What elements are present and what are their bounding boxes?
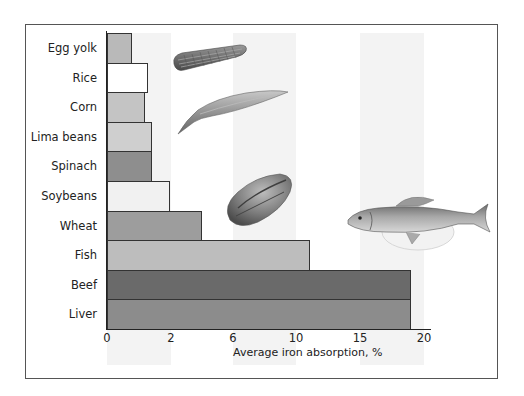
x-tick-label: 0 bbox=[103, 331, 110, 345]
bar-corn bbox=[107, 92, 145, 123]
category-label: Spinach bbox=[51, 151, 97, 181]
bar-egg-yolk bbox=[107, 33, 132, 64]
x-tick-label: 10 bbox=[289, 331, 304, 345]
x-tick-label: 2 bbox=[167, 331, 174, 345]
x-tick-label: 15 bbox=[353, 331, 368, 345]
y-axis-line bbox=[106, 31, 107, 330]
soybean-illustration bbox=[224, 170, 296, 230]
category-label: Beef bbox=[71, 270, 97, 300]
category-label: Soybeans bbox=[41, 181, 97, 211]
bar-spinach bbox=[107, 151, 152, 182]
x-axis-line bbox=[106, 329, 431, 330]
bar-soybeans bbox=[107, 181, 170, 212]
bean-pod-illustration bbox=[176, 88, 290, 138]
fish-illustration bbox=[346, 190, 494, 254]
category-label: Egg yolk bbox=[48, 33, 97, 63]
category-label: Fish bbox=[75, 240, 97, 270]
category-label: Corn bbox=[70, 92, 97, 122]
x-axis-title: Average iron absorption, % bbox=[233, 346, 382, 359]
bar-lima-beans bbox=[107, 122, 152, 153]
category-label: Wheat bbox=[60, 211, 97, 241]
corn-illustration bbox=[170, 42, 250, 74]
bar-rice bbox=[107, 63, 148, 94]
category-label: Liver bbox=[69, 299, 97, 329]
x-tick-label: 6 bbox=[229, 331, 236, 345]
category-label: Lima beans bbox=[31, 122, 97, 152]
x-tick-label: 20 bbox=[417, 331, 432, 345]
category-label: Rice bbox=[72, 63, 97, 93]
bar-liver bbox=[107, 299, 411, 330]
bar-wheat bbox=[107, 211, 202, 242]
bar-beef bbox=[107, 270, 411, 301]
bar-fish bbox=[107, 240, 310, 271]
